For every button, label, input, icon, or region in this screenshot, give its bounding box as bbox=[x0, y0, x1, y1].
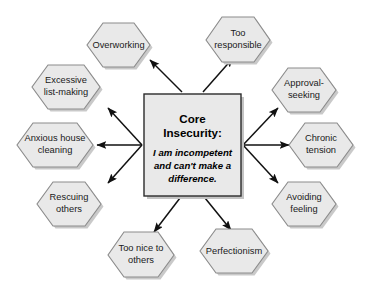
approval-seeking-label-line2: seeking bbox=[288, 90, 320, 100]
node-rescuing-others[interactable]: Rescuing others bbox=[37, 182, 104, 229]
avoiding-feeling-label-line1: Avoiding bbox=[286, 192, 322, 202]
core-insecurity-diagram: Overworking Too responsible Approval- se… bbox=[0, 0, 387, 297]
rescuing-others-label-line1: Rescuing bbox=[50, 192, 89, 202]
node-too-nice-to-others[interactable]: Too nice to others bbox=[108, 232, 177, 280]
perfectionism-label: Perfectionism bbox=[206, 246, 263, 256]
diagram-canvas: Overworking Too responsible Approval- se… bbox=[0, 0, 387, 297]
avoiding-feeling-label-line2: feeling bbox=[290, 204, 317, 214]
node-avoiding-feeling[interactable]: Avoiding feeling bbox=[272, 182, 339, 229]
node-approval-seeking[interactable]: Approval- seeking bbox=[272, 68, 339, 115]
excessive-list-making-label-line1: Excessive bbox=[45, 75, 87, 85]
center-node-core-insecurity[interactable]: Core Insecurity: I am incompetent and ca… bbox=[144, 94, 244, 199]
arrow-to-rescuing-others bbox=[108, 145, 142, 183]
node-too-responsible[interactable]: Too responsible bbox=[206, 17, 273, 65]
too-nice-to-others-label-line2: others bbox=[128, 255, 154, 265]
arrow-to-too-nice-to-others bbox=[154, 198, 180, 232]
too-responsible-label-line2: responsible bbox=[214, 40, 262, 50]
anxious-house-cleaning-label-line1: Anxious house bbox=[25, 133, 86, 143]
too-responsible-label-line1: Too bbox=[231, 28, 246, 38]
core-insecurity-subtitle-line3: difference. bbox=[168, 173, 216, 184]
core-insecurity-title-line2: Insecurity: bbox=[163, 126, 222, 139]
node-excessive-list-making[interactable]: Excessive list-making bbox=[32, 65, 103, 112]
arrow-to-approval-seeking bbox=[243, 108, 278, 145]
chronic-tension-label-line1: Chronic bbox=[305, 133, 337, 143]
core-insecurity-subtitle-line2: and can't make a bbox=[154, 160, 232, 171]
too-nice-to-others-label-line1: Too nice to bbox=[119, 243, 164, 253]
excessive-list-making-label-line2: list-making bbox=[44, 87, 88, 97]
core-insecurity-subtitle-line1: I am incompetent bbox=[153, 147, 233, 158]
arrow-to-perfectionism bbox=[205, 198, 231, 230]
anxious-house-cleaning-label-line2: cleaning bbox=[38, 145, 73, 155]
overworking-label: Overworking bbox=[92, 40, 144, 50]
node-perfectionism[interactable]: Perfectionism bbox=[200, 229, 271, 276]
node-chronic-tension[interactable]: Chronic tension bbox=[289, 123, 356, 170]
approval-seeking-label-line1: Approval- bbox=[284, 78, 324, 88]
arrow-to-excessive-list-making bbox=[108, 108, 142, 145]
rescuing-others-label-line2: others bbox=[56, 204, 82, 214]
chronic-tension-label-line2: tension bbox=[306, 145, 336, 155]
arrow-to-avoiding-feeling bbox=[243, 145, 278, 183]
node-anxious-house-cleaning[interactable]: Anxious house cleaning bbox=[17, 123, 96, 170]
core-insecurity-title-line1: Core bbox=[179, 112, 206, 125]
node-overworking[interactable]: Overworking bbox=[87, 23, 153, 70]
arrow-to-overworking bbox=[150, 60, 182, 92]
